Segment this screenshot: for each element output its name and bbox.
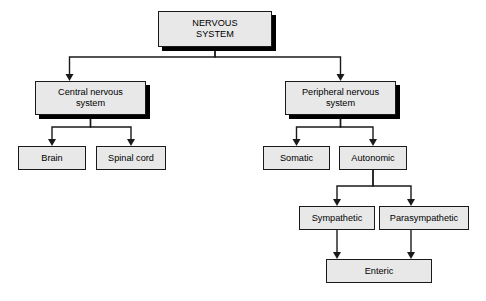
connector-nervous-system-to-peripheral: [215, 47, 345, 81]
connector-line: [373, 170, 411, 199]
connector-central-to-brain: [48, 115, 91, 146]
arrowhead-icon: [66, 74, 74, 81]
arrowhead-icon: [127, 139, 135, 146]
connector-autonomic-to-sympathetic: [333, 170, 373, 206]
node-label-brain: Brain: [41, 153, 62, 164]
arrowhead-icon: [48, 139, 56, 146]
connector-peripheral-to-autonomic: [341, 115, 378, 146]
connector-central-to-spinal-cord: [91, 115, 136, 146]
connector-line: [337, 170, 373, 199]
connector-parasympathetic-to-enteric: [407, 230, 415, 259]
arrowhead-icon: [293, 139, 301, 146]
nervous-system-diagram: NERVOUS SYSTEMCentral nervous systemPeri…: [0, 0, 486, 301]
node-peripheral-nervous-system[interactable]: Peripheral nervous system: [285, 81, 396, 115]
node-nervous-system[interactable]: NERVOUS SYSTEM: [158, 11, 272, 47]
node-spinal-cord[interactable]: Spinal cord: [96, 146, 166, 170]
node-label-parasympathetic: Parasympathetic: [390, 213, 458, 224]
node-label-nervous-system: NERVOUS SYSTEM: [192, 18, 237, 40]
connector-line: [215, 47, 341, 74]
connector-autonomic-to-parasympathetic: [373, 170, 415, 206]
arrowhead-icon: [407, 252, 415, 259]
arrowhead-icon: [337, 74, 345, 81]
connector-peripheral-to-somatic: [293, 115, 341, 146]
arrowhead-icon: [333, 252, 341, 259]
node-parasympathetic[interactable]: Parasympathetic: [379, 206, 469, 230]
node-label-enteric: Enteric: [365, 266, 394, 277]
connector-sympathetic-to-enteric: [333, 230, 341, 259]
arrowhead-icon: [369, 139, 377, 146]
node-label-spinal-cord: Spinal cord: [108, 153, 154, 164]
node-autonomic[interactable]: Autonomic: [339, 146, 407, 170]
node-brain[interactable]: Brain: [18, 146, 86, 170]
node-label-peripheral-nervous-system: Peripheral nervous system: [302, 87, 379, 109]
arrowhead-icon: [333, 199, 341, 206]
node-somatic[interactable]: Somatic: [263, 146, 330, 170]
connector-line: [70, 47, 216, 74]
node-label-central-nervous-system: Central nervous system: [58, 87, 123, 109]
node-label-autonomic: Autonomic: [351, 153, 394, 164]
connector-nervous-system-to-central: [66, 47, 216, 81]
node-enteric[interactable]: Enteric: [326, 259, 432, 283]
node-sympathetic[interactable]: Sympathetic: [299, 206, 375, 230]
arrowhead-icon: [407, 199, 415, 206]
node-central-nervous-system[interactable]: Central nervous system: [35, 81, 146, 115]
node-label-somatic: Somatic: [280, 153, 313, 164]
node-label-sympathetic: Sympathetic: [312, 213, 363, 224]
